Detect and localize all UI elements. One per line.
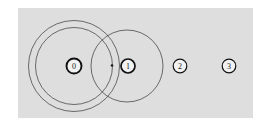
node-label: 3 bbox=[227, 62, 231, 71]
node-1[interactable]: 1 bbox=[121, 59, 135, 73]
node-label: 1 bbox=[126, 62, 130, 71]
node-0[interactable]: 0 bbox=[67, 59, 82, 74]
node-label: 0 bbox=[72, 62, 76, 71]
node-3[interactable]: 3 bbox=[222, 59, 236, 73]
diagram-canvas: 0 1 2 3 bbox=[0, 0, 271, 130]
figure-root: 0 1 2 3 bbox=[0, 0, 271, 130]
node-label: 2 bbox=[178, 62, 182, 71]
point-marker-left-of-node-1 bbox=[111, 64, 114, 67]
node-2[interactable]: 2 bbox=[173, 59, 187, 73]
plot-panel bbox=[18, 8, 253, 118]
point-markers bbox=[111, 64, 114, 67]
